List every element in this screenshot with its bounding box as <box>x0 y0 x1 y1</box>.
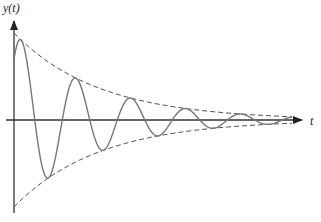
lower-envelope-line <box>14 123 292 207</box>
upper-envelope-line <box>14 33 292 117</box>
damped-oscillation-curve <box>14 39 292 178</box>
damped-oscillation-chart: y(t) t <box>0 0 321 222</box>
x-axis-label: t <box>310 114 314 128</box>
y-axis-label: y(t) <box>2 1 20 15</box>
